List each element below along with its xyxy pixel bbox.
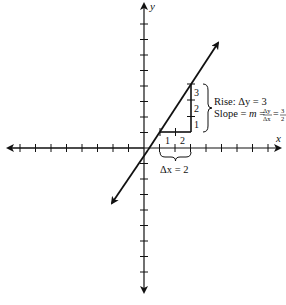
run-brace [160,152,191,161]
slope-annotation: Rise: Δy = 3 Slope = m = Δy Δx = 3 2 [214,96,286,122]
rise-tick-3: 3 [194,87,199,98]
rise-tick-2: 2 [194,103,199,114]
diagram-canvas: x y 1 2 1 2 3 [0,0,286,305]
y-axis-label: y [149,0,155,12]
slope-diagram: x y 1 2 1 2 3 [0,0,286,305]
frac-num: 3 [281,107,284,114]
slope-line-lower [112,150,148,203]
frac-den: 2 [281,115,284,122]
run-label: Δx = 2 [160,164,188,175]
rise-label: Rise: Δy = 3 [214,96,267,107]
y-axis: y [140,0,155,292]
slope-label: Slope = m = [214,108,265,119]
frac-dx: Δx [263,115,271,122]
frac-dy: Δy [263,107,271,114]
x-axis-label: x [275,132,281,144]
rise-brace [203,84,212,132]
run-tick-2: 2 [180,135,185,146]
run-tick-1: 1 [165,135,170,146]
rise-tick-1: 1 [194,119,199,130]
slope-triangle: 1 2 1 2 3 [160,84,199,146]
frac-equals: = [273,108,279,119]
